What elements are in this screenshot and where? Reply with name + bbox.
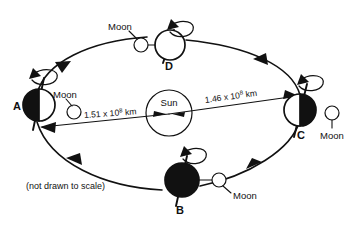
earth-b-body xyxy=(165,163,199,197)
moon-c-body xyxy=(325,106,339,120)
distance-arrowhead-at-a xyxy=(40,122,56,133)
distance-left-mantissa: 1.51 x 10 xyxy=(84,108,120,120)
position-c-label: C xyxy=(297,129,305,141)
position-d-label: D xyxy=(165,60,173,72)
position-b-group: B Moon xyxy=(165,146,257,216)
diagram-canvas: Sun 1.51 x 108 km 1.46 x 108 km xyxy=(0,0,363,229)
earth-c-shadow-half xyxy=(300,94,316,126)
not-to-scale-note: (not drawn to scale) xyxy=(26,181,105,191)
distance-left-unit: km xyxy=(122,107,137,118)
sun-group: Sun xyxy=(146,90,192,136)
orbit-arrowhead-lower-left xyxy=(66,153,82,165)
moon-a-body xyxy=(67,105,81,119)
position-d-group: D Moon xyxy=(108,19,193,72)
earth-b-spin-arrowhead xyxy=(180,146,192,157)
moon-d-body xyxy=(134,38,148,52)
orbit-arc-top-right xyxy=(186,40,300,95)
moon-a-label: Moon xyxy=(53,89,77,100)
distance-right-unit: km xyxy=(243,88,258,100)
position-b-label: B xyxy=(176,204,184,216)
moon-b-body xyxy=(212,173,226,187)
orbit-diagram: Sun 1.51 x 108 km 1.46 x 108 km xyxy=(0,0,363,229)
earth-a-spin-arrowhead xyxy=(29,68,41,79)
distance-right-mantissa: 1.46 x 10 xyxy=(204,90,241,105)
moon-c-label: Moon xyxy=(320,130,344,141)
moon-b-label: Moon xyxy=(233,190,257,201)
position-a-label: A xyxy=(13,100,21,112)
sun-label: Sun xyxy=(161,97,178,108)
orbit-arrowhead-upper-left xyxy=(55,61,71,73)
position-c-group: C Moon xyxy=(284,74,344,141)
position-a-group: A Moon xyxy=(13,68,81,130)
earth-d-spin-arrowhead xyxy=(167,19,179,30)
moon-d-label: Moon xyxy=(108,21,132,32)
distance-arrowhead-toward-sun-left xyxy=(153,111,166,117)
earth-a-shadow-half xyxy=(23,89,39,121)
earth-d-body xyxy=(155,30,185,60)
orbit-arc-bottom-left xyxy=(37,122,162,190)
moon-a-leader xyxy=(66,99,72,106)
orbit-arc-top-left xyxy=(37,37,147,94)
moon-b-leader xyxy=(223,186,231,193)
